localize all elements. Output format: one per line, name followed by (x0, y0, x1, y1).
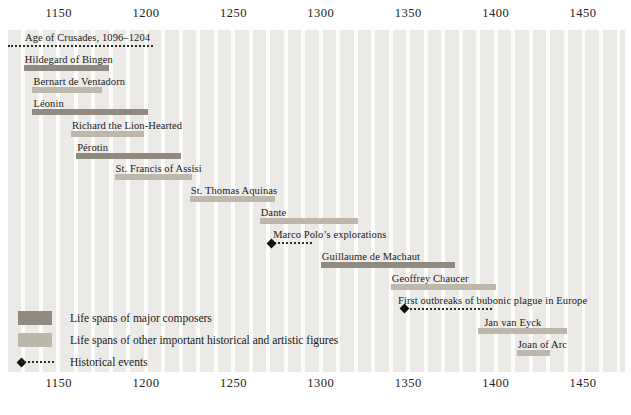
lifespan-bar (260, 218, 358, 224)
axis-tick: 1200 (133, 376, 160, 391)
row-label: Pérotin (77, 142, 108, 153)
row-label: St. Thomas Aquinas (191, 185, 278, 196)
timeline-figure: 1150120012501300135014001450 Life spans … (0, 0, 631, 415)
axis-tick: 1450 (570, 376, 597, 391)
axis-tick: 1300 (307, 6, 334, 21)
legend-swatch-composers (18, 311, 52, 325)
legend-item-figures: Life spans of other important historical… (18, 333, 338, 347)
x-axis-top: 1150120012501300135014001450 (0, 6, 631, 28)
legend-event-sample (18, 355, 52, 369)
legend-label-composers: Life spans of major composers (70, 311, 212, 325)
axis-tick: 1400 (482, 6, 509, 21)
event-dotted-line (21, 361, 54, 363)
lifespan-bar (517, 350, 550, 356)
lifespan-bar (115, 174, 192, 180)
legend-label-figures: Life spans of other important historical… (70, 333, 338, 347)
row-label: Joan of Arc (518, 339, 568, 350)
row-label: Bernart de Ventadorn (33, 76, 125, 87)
axis-tick: 1250 (220, 376, 247, 391)
row-label: Age of Crusades, 1096–1204 (25, 32, 150, 43)
row-label: Jan van Eyck (484, 317, 541, 328)
x-axis-bottom: 1150120012501300135014001450 (0, 376, 631, 398)
axis-tick: 1350 (395, 376, 422, 391)
legend-swatch-figures (18, 333, 52, 347)
axis-tick: 1150 (45, 6, 72, 21)
row-label: First outbreaks of bubonic plague in Eur… (398, 295, 587, 306)
legend-item-composers: Life spans of major composers (18, 311, 212, 325)
legend-item-events: Historical events (18, 355, 148, 369)
lifespan-bar (391, 284, 496, 290)
lifespan-bar (24, 65, 110, 71)
axis-tick: 1250 (220, 6, 247, 21)
event-dotted-line (8, 45, 153, 47)
legend-label-events: Historical events (70, 355, 148, 369)
axis-tick: 1350 (395, 6, 422, 21)
axis-tick: 1300 (307, 376, 334, 391)
lifespan-bar (76, 153, 181, 159)
row-label: Hildegard of Bingen (25, 54, 113, 65)
plot-area: Life spans of major composers Life spans… (8, 30, 625, 372)
row-label: Geoffrey Chaucer (392, 273, 469, 284)
row-label: St. Francis of Assisi (116, 163, 202, 174)
row-label: Richard the Lion-Hearted (72, 120, 182, 131)
axis-tick: 1200 (133, 6, 160, 21)
lifespan-bar (32, 109, 147, 115)
event-dotted-line (403, 308, 492, 310)
lifespan-bar (321, 262, 456, 268)
row-label: Léonin (33, 98, 63, 109)
axis-tick: 1150 (45, 376, 72, 391)
row-label: Dante (261, 207, 287, 218)
lifespan-bar (190, 196, 276, 202)
lifespan-bar (32, 87, 102, 93)
row-label: Guillaume de Machaut (322, 251, 420, 262)
row-label: Marco Polo’s explorations (273, 229, 386, 240)
lifespan-bar (71, 131, 144, 137)
axis-tick: 1450 (570, 6, 597, 21)
axis-tick: 1400 (482, 376, 509, 391)
lifespan-bar (478, 328, 567, 334)
